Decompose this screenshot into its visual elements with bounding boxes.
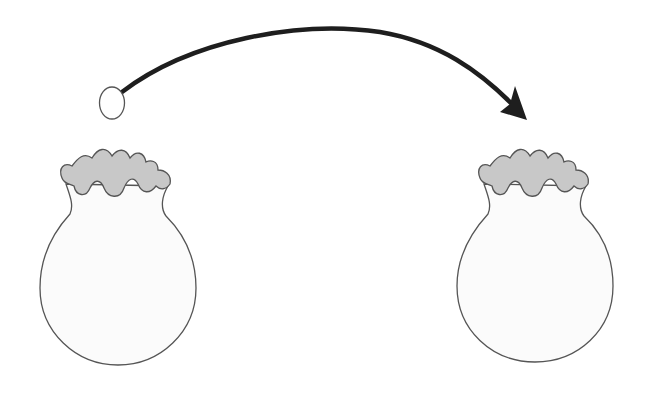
left-flask	[40, 149, 196, 365]
arrowhead-icon	[500, 86, 527, 120]
transfer-diagram	[0, 0, 647, 394]
transfer-arrow	[122, 29, 527, 120]
ball	[100, 87, 125, 119]
right-flask	[457, 149, 613, 362]
flask-body	[40, 184, 196, 365]
arrow-shaft	[122, 29, 512, 104]
flask-body	[457, 184, 613, 362]
flask-ruffle	[479, 149, 589, 196]
flask-ruffle	[61, 149, 171, 196]
